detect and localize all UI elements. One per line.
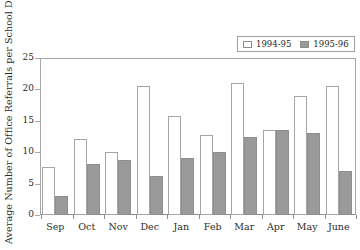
legend-swatch-icon bbox=[243, 41, 252, 48]
y-axis-tick-mark bbox=[35, 58, 40, 59]
bar-group bbox=[104, 58, 136, 215]
x-axis-tick-mark bbox=[325, 215, 326, 219]
bar-nov-1994-95 bbox=[105, 152, 118, 215]
legend-item-1994-95[interactable]: 1994-95 bbox=[243, 39, 291, 49]
x-axis-tick-mark bbox=[73, 215, 74, 219]
bar-may-1995-96 bbox=[307, 133, 320, 215]
bar-group bbox=[41, 58, 73, 215]
bar-mar-1994-95 bbox=[231, 83, 244, 215]
bar-group bbox=[136, 58, 168, 215]
bar-oct-1994-95 bbox=[74, 139, 87, 215]
bar-group bbox=[262, 58, 294, 215]
x-axis-tick-mark bbox=[41, 215, 42, 219]
x-axis-label-june: June bbox=[319, 221, 359, 232]
bar-group bbox=[325, 58, 357, 215]
bar-feb-1995-96 bbox=[213, 152, 226, 215]
x-axis-tick-mark bbox=[199, 215, 200, 219]
y-axis-tick-mark bbox=[35, 121, 40, 122]
x-axis-tick-mark bbox=[136, 215, 137, 219]
bar-sep-1995-96 bbox=[55, 196, 68, 215]
x-axis-tick-mark bbox=[262, 215, 263, 219]
bar-dec-1994-95 bbox=[137, 86, 150, 215]
x-axis-tick-mark bbox=[230, 215, 231, 219]
y-axis-tick-label: 15 bbox=[0, 115, 40, 127]
y-axis-tick-label: 10 bbox=[0, 146, 40, 158]
legend-label: 1994-95 bbox=[256, 39, 291, 49]
x-axis-tick-mark bbox=[356, 215, 357, 219]
y-axis-tick-mark bbox=[35, 89, 40, 90]
bar-group bbox=[230, 58, 262, 215]
x-axis: SepOctNovDecJanFebMarAprMayJune bbox=[41, 221, 356, 237]
bar-sep-1994-95 bbox=[42, 167, 55, 215]
bar-group bbox=[73, 58, 105, 215]
y-axis-tick-label: 20 bbox=[0, 83, 40, 95]
plot-area bbox=[41, 58, 356, 215]
bar-group bbox=[293, 58, 325, 215]
bar-nov-1995-96 bbox=[118, 160, 131, 215]
bar-apr-1995-96 bbox=[276, 130, 289, 215]
bar-group bbox=[167, 58, 199, 215]
y-axis-tick-label: 5 bbox=[0, 178, 40, 190]
bar-oct-1995-96 bbox=[87, 164, 100, 215]
y-axis-tick-label: 25 bbox=[0, 52, 40, 64]
bar-apr-1994-95 bbox=[263, 130, 276, 215]
y-axis-tick-mark bbox=[35, 215, 40, 216]
bar-group bbox=[356, 58, 357, 215]
x-axis-tick-mark bbox=[293, 215, 294, 219]
bar-may-1994-95 bbox=[294, 96, 307, 215]
legend-item-1995-96[interactable]: 1995-96 bbox=[300, 39, 348, 49]
y-axis-tick-label: 0 bbox=[0, 209, 40, 221]
x-axis-tick-mark bbox=[104, 215, 105, 219]
bar-jan-1994-95 bbox=[168, 116, 181, 215]
bar-mar-1995-96 bbox=[244, 137, 257, 216]
legend-label: 1995-96 bbox=[313, 39, 348, 49]
bar-jan-1995-96 bbox=[181, 158, 194, 215]
bar-june-1995-96 bbox=[339, 171, 352, 215]
legend-swatch-icon bbox=[300, 41, 309, 48]
bar-chart: Average Number of Office Referrals per S… bbox=[0, 0, 360, 250]
bar-feb-1994-95 bbox=[200, 135, 213, 215]
y-axis-tick-mark bbox=[35, 152, 40, 153]
bar-dec-1995-96 bbox=[150, 176, 163, 215]
legend: 1994-951995-96 bbox=[237, 36, 355, 52]
bar-group bbox=[199, 58, 231, 215]
bar-june-1994-95 bbox=[326, 86, 339, 215]
y-axis-tick-mark bbox=[35, 184, 40, 185]
x-axis-tick-mark bbox=[167, 215, 168, 219]
